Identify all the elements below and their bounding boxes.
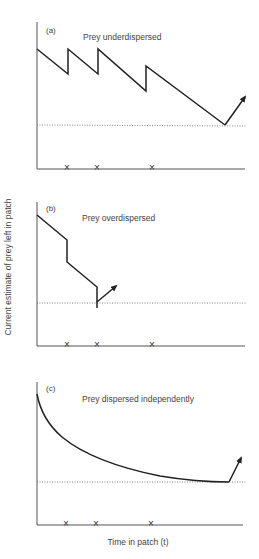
- x-axis-label: Time in patch (t): [88, 537, 188, 547]
- panel-b-title: Prey overdispersed: [82, 213, 155, 223]
- capture-mark: ×: [64, 340, 70, 350]
- leave-arrow: [229, 458, 241, 482]
- capture-mark: ×: [63, 519, 69, 529]
- panel-a-tag: (a): [46, 26, 56, 35]
- capture-mark: ×: [149, 163, 155, 173]
- panel-a: [37, 22, 246, 169]
- capture-mark: ×: [148, 519, 154, 529]
- estimate-line: [37, 49, 225, 125]
- panel-c-title: Prey dispersed independently: [82, 394, 194, 404]
- estimate-curve: [37, 394, 229, 482]
- panel-a-title: Prey underdispersed: [83, 32, 161, 42]
- capture-mark: ×: [94, 340, 100, 350]
- panel-c-tag: (c): [46, 384, 55, 393]
- capture-mark: ×: [94, 163, 100, 173]
- capture-mark: ×: [149, 340, 155, 350]
- capture-mark: ×: [93, 519, 99, 529]
- estimate-line: [37, 215, 97, 308]
- capture-mark: ×: [64, 163, 70, 173]
- panel-b-tag: (b): [46, 204, 56, 213]
- leave-arrow: [225, 97, 245, 125]
- figure-canvas: [0, 0, 259, 559]
- panel-b: [37, 202, 246, 346]
- y-axis-label: Current estimate of prey left in patch: [3, 192, 13, 342]
- threshold-line: [37, 125, 246, 126]
- leave-arrow: [97, 286, 116, 302]
